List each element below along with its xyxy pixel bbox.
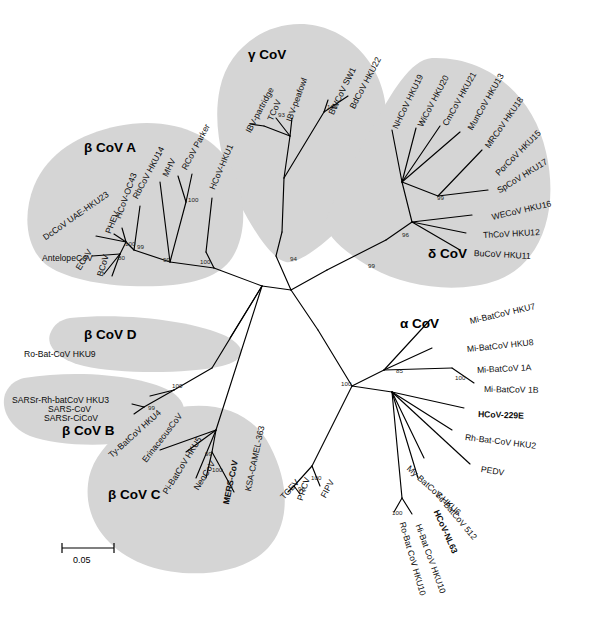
bootstrap-boot-betac-mers: 100 bbox=[212, 466, 222, 473]
clade-label-beta-cov-c: β CoV C bbox=[108, 487, 161, 502]
taxon-label-ro-bat-cov-hku9: Ro-Bat-CoV HKU9 bbox=[24, 350, 96, 359]
bootstrap-boot-delta-root: 96 bbox=[402, 231, 409, 238]
bootstrap-boot-alpha-prcv: 96 bbox=[298, 485, 305, 492]
bootstrap-boot-alpha-mi: 85 bbox=[396, 367, 403, 374]
bootstrap-boot-gamma-root: 94 bbox=[290, 255, 297, 262]
bootstrap-boot-betaa-mid: 99 bbox=[163, 256, 170, 263]
scale-bar-label: 0.05 bbox=[73, 555, 91, 565]
bootstrap-boot-betaa-inner: 100 bbox=[125, 240, 135, 247]
clade-label-alpha-cov: α CoV bbox=[400, 316, 439, 331]
bootstrap-boot-gamma-inner: 93 bbox=[278, 111, 285, 118]
phylogenetic-tree-figure: γ CoVδ CoVβ CoV Aβ CoV Dβ CoV Bβ CoV Cα … bbox=[0, 0, 594, 620]
bootstrap-boot-betab-sars: 99 bbox=[148, 404, 155, 411]
bootstrap-boot-alpha-hku10: 100 bbox=[392, 509, 402, 516]
taxon-label-hcov-229e: HCoV-229E bbox=[478, 410, 524, 420]
taxon-label-mi-batcov-1b: Mi-BatCoV 1B bbox=[484, 385, 539, 395]
scale-bar bbox=[62, 543, 114, 553]
bootstrap-boot-delta-upper: 99 bbox=[437, 194, 444, 201]
bootstrap-boot-alpha-mi1: 100 bbox=[455, 374, 465, 381]
clade-label-delta-cov: δ CoV bbox=[428, 246, 467, 261]
bootstrap-boot-alpha-root: 100 bbox=[341, 380, 351, 387]
clade-label-beta-cov-b: β CoV B bbox=[62, 423, 115, 438]
clade-label-beta-cov-a: β CoV A bbox=[84, 140, 136, 155]
bootstrap-boot-betaa-stem: 100 bbox=[200, 258, 210, 265]
taxon-label-sarsr-cicov: SARSr-CiCoV bbox=[44, 414, 98, 423]
bootstrap-boot-betab-node: 100 bbox=[172, 382, 182, 389]
bootstrap-boot-betac-neo: 99 bbox=[205, 450, 212, 457]
clade-label-gamma-cov: γ CoV bbox=[248, 47, 286, 62]
bootstrap-boot-betaa-bc: 80 bbox=[118, 254, 125, 261]
bootstrap-boot-alpha-tgev: 100 bbox=[311, 474, 321, 481]
bootstrap-boot-betaa-oc43: 99 bbox=[137, 243, 144, 250]
bootstrap-boot-delta-stem: 99 bbox=[368, 262, 375, 269]
bootstrap-boot-betaa-rc: 100 bbox=[188, 196, 198, 203]
beta-d-clade-shape bbox=[49, 316, 241, 372]
clade-label-beta-cov-d: β CoV D bbox=[84, 327, 137, 342]
bootstrap-boot-gamma-bw: 100 bbox=[327, 103, 337, 110]
